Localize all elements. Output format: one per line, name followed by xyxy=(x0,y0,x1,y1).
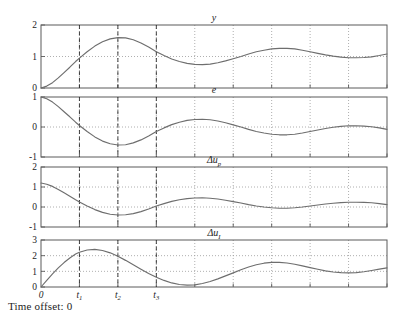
y-tick-label: -1 xyxy=(29,222,37,232)
x-tick-label: 0 xyxy=(39,290,44,300)
plot-frame xyxy=(41,167,387,227)
scope-panel-2: -1012Δup xyxy=(29,154,387,232)
scope-panel-0: 012y xyxy=(32,12,387,93)
scope-plot-area: 012y-101e-1012Δup0123ΔuI0t1t2t3 xyxy=(0,0,407,324)
panel-title: y xyxy=(211,12,217,23)
y-tick-label: 0 xyxy=(32,202,37,212)
data-curve xyxy=(41,249,387,287)
x-tick-label: t1 xyxy=(76,290,82,301)
data-curve xyxy=(41,38,387,88)
y-tick-label: 2 xyxy=(32,20,37,30)
panel-title: e xyxy=(212,84,217,95)
time-offset-label: Time offset: 0 xyxy=(8,300,73,312)
y-tick-label: 1 xyxy=(32,182,37,192)
panel-title: Δup xyxy=(206,154,222,167)
y-tick-label: 2 xyxy=(32,162,37,172)
data-curve xyxy=(41,97,387,145)
y-tick-label: 3 xyxy=(32,235,37,245)
scope-panel-3: 0123ΔuI0t1t2t3 xyxy=(32,227,387,301)
y-tick-label: 1 xyxy=(32,92,37,102)
y-tick-label: 1 xyxy=(32,52,37,62)
y-tick-label: 2 xyxy=(32,251,37,261)
y-tick-label: 1 xyxy=(32,267,37,277)
y-tick-label: -1 xyxy=(29,152,37,162)
simulation-scope-figure: 012y-101e-1012Δup0123ΔuI0t1t2t3 Time off… xyxy=(0,0,407,324)
data-curve xyxy=(41,183,387,215)
scope-panel-1: -101e xyxy=(29,84,387,162)
x-tick-label: t2 xyxy=(115,290,122,301)
panel-title: ΔuI xyxy=(206,227,221,240)
y-tick-label: 0 xyxy=(32,122,37,132)
x-tick-label: t3 xyxy=(153,290,160,301)
y-tick-label: 0 xyxy=(32,282,37,292)
